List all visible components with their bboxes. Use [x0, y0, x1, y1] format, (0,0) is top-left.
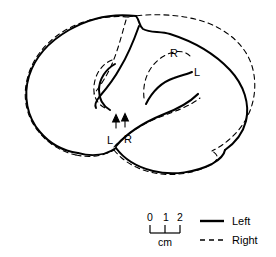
scale-bar-ruler	[150, 225, 180, 233]
label-sylvian-left: L	[107, 134, 113, 146]
scale-tick-label-2: 2	[177, 211, 183, 223]
legend: Left Right	[200, 215, 258, 246]
scale-bar: 0 1 2 cm	[147, 211, 183, 248]
legend-item-right: Right	[200, 234, 258, 246]
label-superior-left: L	[194, 66, 200, 78]
label-sylvian-right: R	[124, 133, 132, 145]
sylvian-right-marker-arrow	[122, 114, 129, 128]
scale-tick-label-1: 1	[163, 211, 169, 223]
figure-canvas: L R R L 0 1 2 cm Left Right	[0, 0, 276, 257]
legend-label-left: Left	[232, 215, 250, 227]
legend-label-right: Right	[232, 234, 258, 246]
left-superior-temporal-branch	[146, 72, 192, 104]
brain-outline-figure: L R R L 0 1 2 cm Left Right	[0, 0, 276, 257]
legend-item-left: Left	[200, 215, 250, 227]
sylvian-left-marker-arrow	[113, 115, 120, 129]
label-superior-right: R	[170, 47, 178, 59]
scale-tick-label-0: 0	[147, 211, 153, 223]
scale-unit-label: cm	[158, 236, 172, 248]
right-hemisphere-outline	[25, 15, 255, 175]
